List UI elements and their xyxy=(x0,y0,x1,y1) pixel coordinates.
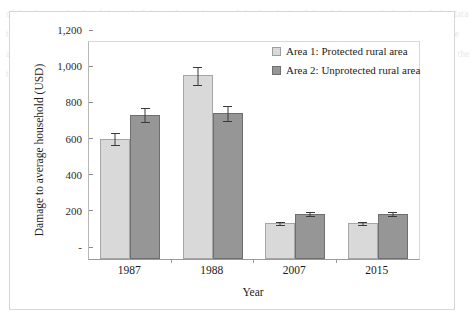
bar-1987-series1[interactable] xyxy=(100,139,130,259)
bar-2015-series1[interactable] xyxy=(348,223,378,259)
error-bar-1988-series1 xyxy=(197,67,198,87)
error-bar-1987-series1 xyxy=(115,133,116,146)
y-tick-label: 800 xyxy=(66,96,83,108)
y-tick-mark xyxy=(89,30,93,31)
x-tick-label-2007: 2007 xyxy=(253,264,336,276)
error-bar-2007-series1 xyxy=(280,222,281,226)
y-tick-400: 400 xyxy=(66,169,90,181)
error-bar-1988-series2 xyxy=(227,106,228,122)
bar-2007-series2[interactable] xyxy=(295,214,325,259)
y-tick-1200: 1,200 xyxy=(57,24,89,36)
legend-label: Area 2: Unprotected rural area xyxy=(286,64,420,76)
x-tick-label-2015: 2015 xyxy=(336,264,419,276)
bar-1988-series1[interactable] xyxy=(183,75,213,259)
bar-2007-series1[interactable] xyxy=(265,223,295,259)
error-bar-2015-series2 xyxy=(392,212,393,217)
legend-label: Area 1: Protected rural area xyxy=(286,45,408,57)
bar-2015-series2[interactable] xyxy=(378,214,408,259)
legend-item-series1[interactable]: Area 1: Protected rural area xyxy=(272,45,420,57)
y-tick-label: 1,000 xyxy=(57,60,82,72)
y-tick-label: - xyxy=(78,241,82,253)
y-tick-800: 800 xyxy=(66,96,90,108)
legend-swatch-icon xyxy=(272,66,281,75)
y-axis-title-text: Damage to average household (USD) xyxy=(33,63,45,235)
x-tick-label-1987: 1987 xyxy=(88,264,171,276)
chart-figure: of the data set the the of the and of th… xyxy=(0,0,476,327)
y-tick-label: 200 xyxy=(66,205,83,217)
bar-group-1987 xyxy=(89,42,172,259)
bar-1987-series2[interactable] xyxy=(130,115,160,259)
y-tick-label: 600 xyxy=(66,133,83,145)
y-tick-200: 200 xyxy=(66,205,90,217)
legend-swatch-icon xyxy=(272,47,281,56)
y-tick-label: 1,200 xyxy=(57,24,82,36)
error-bar-2015-series1 xyxy=(362,222,363,226)
x-axis-title: Year xyxy=(88,286,418,298)
x-tick-label-1988: 1988 xyxy=(171,264,254,276)
legend-item-series2[interactable]: Area 2: Unprotected rural area xyxy=(272,64,420,76)
bar-1988-series2[interactable] xyxy=(213,113,243,259)
y-tick-label: 400 xyxy=(66,169,83,181)
bar-group-1988 xyxy=(172,42,255,259)
y-tick-1000: 1,000 xyxy=(57,60,89,72)
y-tick-0: - xyxy=(78,241,89,253)
x-axis-ticks: 1987198820072015 xyxy=(88,264,418,276)
chart-legend: Area 1: Protected rural areaArea 2: Unpr… xyxy=(272,45,420,76)
error-bar-2007-series2 xyxy=(310,212,311,217)
error-bar-1987-series2 xyxy=(145,108,146,122)
y-axis-title: Damage to average household (USD) xyxy=(31,41,47,258)
y-tick-600: 600 xyxy=(66,133,90,145)
